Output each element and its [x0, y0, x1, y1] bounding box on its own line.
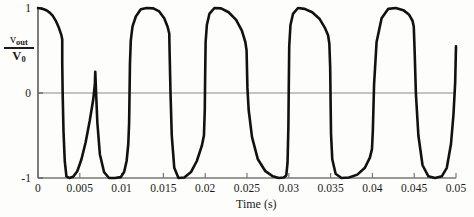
y-axis-label-denominator-sub: 0 — [21, 53, 25, 63]
y-axis-label-numerator: vout — [2, 33, 36, 46]
x-tick-label: 0.03 — [279, 182, 300, 194]
x-tick-label: 0.045 — [401, 182, 427, 194]
y-axis-label-denominator: V0 — [2, 50, 36, 63]
y-axis-label: vout V0 — [2, 33, 36, 63]
x-tick-label: 0.01 — [111, 182, 132, 194]
x-tick-label: 0.04 — [362, 182, 383, 194]
x-tick-label: 0.005 — [67, 182, 93, 194]
y-tick-label: -1 — [21, 172, 31, 184]
x-tick-label: 0.025 — [234, 182, 260, 194]
x-tick-label: 0.015 — [150, 182, 176, 194]
y-tick-label: 1 — [25, 2, 31, 14]
x-tick-label: 0.02 — [195, 182, 216, 194]
y-tick-marks — [38, 8, 43, 178]
x-tick-label: 0 — [35, 182, 41, 194]
chart-figure: vout V0 -101 00.0050.010.0150.020.0250.0… — [0, 0, 474, 217]
x-tick-label: 0.035 — [317, 182, 343, 194]
y-tick-label: 0 — [25, 87, 31, 99]
x-axis-title: Time (s) — [236, 197, 277, 212]
y-axis-label-numerator-sub: out — [16, 37, 28, 47]
x-tick-label: 0.05 — [446, 182, 467, 194]
